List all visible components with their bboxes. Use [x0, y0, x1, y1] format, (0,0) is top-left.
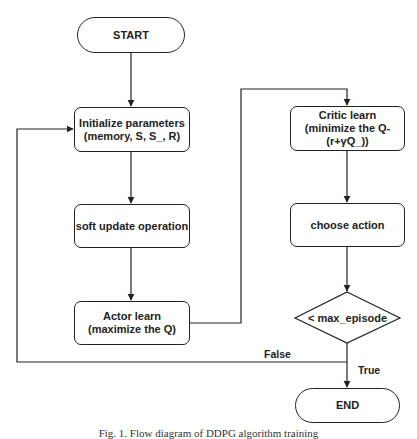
start-label: START: [113, 29, 149, 42]
soft-update-box: soft update operation: [74, 204, 190, 248]
critic-learn-box: Critic learn (minimize the Q- (r+γQ_)): [290, 106, 405, 151]
decision-label: < max_episode: [308, 312, 387, 324]
critic-line1: Critic learn: [305, 109, 391, 122]
critic-line3: (r+γQ_)): [305, 135, 391, 148]
end-label: END: [336, 399, 359, 412]
initialize-line1: Initialize parameters: [79, 117, 185, 130]
actor-line2: (maximize the Q): [88, 323, 176, 336]
decision-max-episode: < max_episode: [295, 292, 400, 343]
initialize-parameters-box: Initialize parameters (memory, S, S_, R): [74, 107, 190, 152]
false-label: False: [264, 348, 291, 360]
choose-action-label: choose action: [311, 219, 385, 232]
figure-caption: Fig. 1. Flow diagram of DDPG algorithm t…: [0, 427, 417, 439]
initialize-line2: (memory, S, S_, R): [79, 130, 185, 143]
true-label: True: [358, 364, 380, 376]
start-terminator: START: [77, 17, 185, 53]
actor-learn-box: Actor learn (maximize the Q): [74, 301, 190, 345]
critic-line2: (minimize the Q-: [305, 122, 391, 135]
soft-update-label: soft update operation: [76, 220, 188, 233]
choose-action-box: choose action: [290, 203, 405, 247]
end-terminator: END: [295, 388, 400, 423]
actor-line1: Actor learn: [88, 310, 176, 323]
